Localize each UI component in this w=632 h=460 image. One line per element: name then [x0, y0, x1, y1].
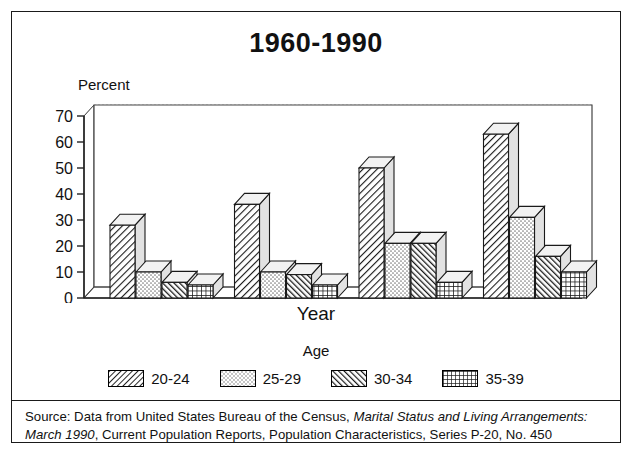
legend: 20-24 25-29 30-34 35-39	[12, 370, 620, 387]
y-tick-label: 60	[55, 134, 73, 151]
legend-item-20-24: 20-24	[108, 370, 189, 387]
legend-label-35-39: 35-39	[485, 370, 523, 387]
bar-1990-35-39	[562, 261, 597, 298]
legend-title: Age	[12, 342, 620, 359]
legend-item-35-39: 35-39	[442, 370, 523, 387]
y-axis-ticks: 010203040506070	[55, 108, 84, 303]
source-suffix: , Current Population Reports, Population…	[95, 427, 552, 442]
y-tick-label: 70	[55, 108, 73, 125]
y-tick-label: 40	[55, 186, 73, 203]
legend-swatch-20-24	[108, 370, 144, 387]
legend-swatch-25-29	[220, 370, 256, 387]
legend-label-30-34: 30-34	[374, 370, 412, 387]
legend-label-25-29: 25-29	[263, 370, 301, 387]
x-axis-label: Year	[12, 303, 620, 325]
chart-title: 1960-1990	[12, 28, 620, 59]
legend-swatch-35-39	[442, 370, 478, 387]
legend-label-20-24: 20-24	[151, 370, 189, 387]
plot-area: 010203040506070 1960197019801990	[12, 88, 622, 303]
source-prefix: Source: Data from United States Bureau o…	[25, 409, 353, 424]
source-note: Source: Data from United States Bureau o…	[25, 408, 611, 444]
y-tick-label: 10	[55, 264, 73, 281]
y-tick-label: 20	[55, 238, 73, 255]
legend-swatch-30-34	[331, 370, 367, 387]
legend-item-30-34: 30-34	[331, 370, 412, 387]
y-tick-label: 0	[64, 290, 73, 303]
y-tick-label: 30	[55, 212, 73, 229]
source-divider	[12, 400, 620, 401]
y-tick-label: 50	[55, 160, 73, 177]
legend-item-25-29: 25-29	[220, 370, 301, 387]
chart-figure: 1960-1990 Percent	[11, 11, 621, 443]
